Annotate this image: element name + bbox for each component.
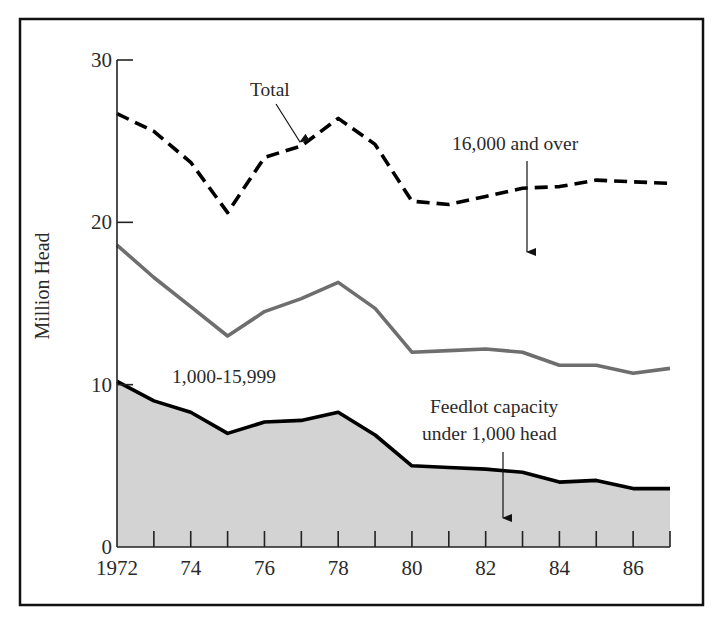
area-fill xyxy=(117,381,670,547)
annotation-under1000_l1: Feedlot capacity xyxy=(430,396,559,417)
annotation-over16000: 16,000 and over xyxy=(452,133,579,154)
x-tick-label: 78 xyxy=(328,556,349,580)
x-tick-label: 76 xyxy=(254,556,275,580)
x-tick-label: 80 xyxy=(401,556,422,580)
y-axis-title: Million Head xyxy=(31,232,53,339)
x-tick-label: 82 xyxy=(475,556,496,580)
x-tick-label: 84 xyxy=(549,556,571,580)
y-tick-label: 20 xyxy=(91,210,112,234)
x-tick-label: 86 xyxy=(623,556,644,580)
chart: 0102030 197274767880828486 Million Head … xyxy=(0,0,718,617)
annotation-mid: 1,000-15,999 xyxy=(172,366,276,387)
y-tick-label: 30 xyxy=(91,48,112,72)
line-total xyxy=(117,114,670,213)
area-under-1000 xyxy=(117,381,670,547)
y-tick-label: 10 xyxy=(91,373,112,397)
annotation-total: Total xyxy=(250,79,290,100)
arrow-icon xyxy=(276,104,300,142)
line-1000-15999-cumulative xyxy=(117,245,670,373)
annotation-under1000_l2: under 1,000 head xyxy=(422,423,557,444)
x-tick-label: 1972 xyxy=(96,556,138,580)
y-axis-labels: 0102030 xyxy=(91,48,112,559)
x-tick-label: 74 xyxy=(180,556,202,580)
x-axis-labels: 197274767880828486 xyxy=(96,556,644,580)
